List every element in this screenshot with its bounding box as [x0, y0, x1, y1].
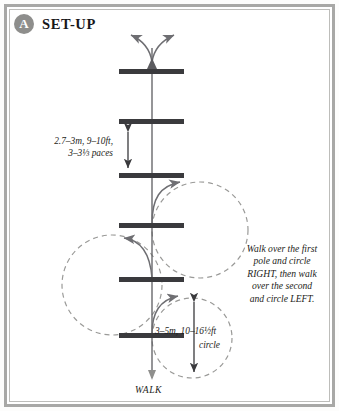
top-arrow-right: [152, 35, 174, 62]
circle-label-line1: 3–5m, 10–16½ft: [154, 326, 217, 336]
instruction-line-4: over the second: [228, 280, 336, 292]
gait-label: WALK: [135, 384, 162, 395]
pole-1: [119, 69, 184, 74]
instruction-line-3: RIGHT, then walk: [228, 268, 336, 280]
diagram-page: A SET-UP: [0, 0, 339, 411]
circle-label-line2: circle: [199, 340, 220, 350]
arc-arrow-left: [124, 238, 152, 278]
spacing-label-line2: 3–3⅓ paces: [67, 148, 113, 158]
walk-direction-arrow: [148, 370, 156, 380]
instruction-line-5: and circle LEFT.: [228, 293, 336, 305]
pole-layout-diagram: 2.7–3m, 9–10ft, 3–3⅓ paces 3–5m, 10–16½f…: [0, 0, 339, 411]
pole-4: [119, 223, 184, 228]
instruction-line-1: Walk over the first: [228, 243, 336, 255]
top-arrow-apex: [147, 58, 157, 69]
pole-3: [119, 173, 184, 178]
instruction-note: Walk over the first pole and circle RIGH…: [228, 243, 336, 305]
spacing-label-line1: 2.7–3m, 9–10ft,: [54, 136, 113, 146]
instruction-line-2: pole and circle: [228, 255, 336, 267]
pole-5: [119, 277, 184, 282]
pole-2: [119, 119, 184, 124]
dashed-circle-left: [62, 235, 162, 335]
top-arrow-left: [131, 35, 152, 62]
